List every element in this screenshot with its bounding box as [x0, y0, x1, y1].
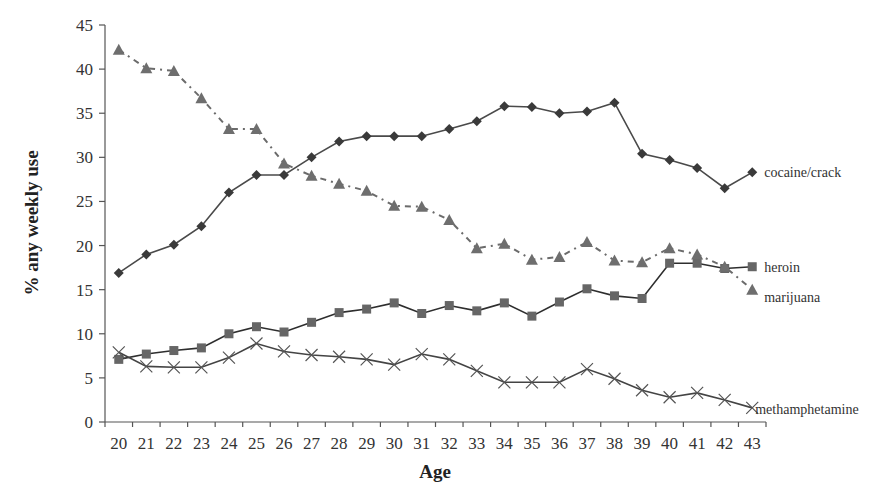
data-point [361, 185, 373, 196]
y-tick-label: 40 [76, 60, 93, 79]
data-point [417, 131, 427, 141]
data-point [307, 152, 317, 162]
data-point [114, 268, 124, 278]
data-point [499, 101, 509, 111]
data-point [526, 254, 538, 265]
y-tick-label: 30 [76, 148, 93, 167]
y-tick-label: 5 [85, 369, 94, 388]
series-label: cocaine/crack [764, 165, 841, 180]
data-point [169, 240, 179, 250]
data-point [610, 291, 619, 300]
data-point [443, 214, 455, 225]
data-point [224, 329, 233, 338]
y-axis-title: % any weekly use [21, 150, 42, 295]
y-tick-label: 15 [76, 281, 93, 300]
data-point [664, 242, 676, 253]
data-point [498, 238, 510, 249]
data-point [693, 259, 702, 268]
data-point [389, 131, 399, 141]
data-point [334, 136, 344, 146]
y-tick-label: 35 [76, 104, 93, 123]
data-point [527, 312, 536, 321]
x-tick-label: 31 [413, 434, 430, 453]
series-layer: cocaine/crackheroinmarijuanamethamphetam… [113, 44, 859, 417]
x-tick-label: 23 [193, 434, 210, 453]
data-point [335, 308, 344, 317]
series-line [119, 343, 752, 407]
data-point [582, 284, 591, 293]
y-tick-label: 20 [76, 237, 93, 256]
data-point [471, 365, 483, 377]
data-point [636, 256, 648, 267]
y-tick-label: 0 [85, 413, 94, 432]
series-line [119, 103, 752, 273]
y-ticks: 051015202530354045 [76, 16, 105, 432]
data-point [169, 346, 178, 355]
x-tick-label: 29 [358, 434, 375, 453]
y-tick-label: 45 [76, 16, 93, 35]
x-tick-label: 40 [661, 434, 678, 453]
y-tick-label: 25 [76, 192, 93, 211]
data-point [472, 116, 482, 126]
data-point [278, 158, 290, 169]
x-tick-label: 24 [220, 434, 238, 453]
x-tick-label: 32 [441, 434, 458, 453]
data-point [141, 249, 151, 259]
series-marijuana: marijuana [113, 44, 821, 305]
data-point [748, 262, 757, 271]
data-point [609, 255, 621, 266]
y-tick-label: 10 [76, 325, 93, 344]
data-point [362, 131, 372, 141]
series-methamphetamine: methamphetamine [113, 337, 859, 416]
line-chart: 051015202530354045 202122232425262728293… [0, 0, 888, 504]
x-tick-label: 42 [716, 434, 733, 453]
data-point [636, 384, 648, 396]
data-point [581, 363, 593, 375]
data-point [280, 328, 289, 337]
x-tick-label: 33 [468, 434, 485, 453]
data-point [307, 318, 316, 327]
data-point [252, 322, 261, 331]
series-label: methamphetamine [755, 402, 858, 417]
x-tick-label: 35 [523, 434, 540, 453]
x-tick-label: 20 [110, 434, 127, 453]
data-point [665, 155, 675, 165]
x-axis-title: Age [419, 461, 451, 482]
x-tick-label: 25 [248, 434, 265, 453]
series-line [119, 50, 752, 290]
data-point [665, 259, 674, 268]
x-tick-label: 41 [689, 434, 706, 453]
data-point [113, 44, 125, 55]
x-tick-label: 36 [551, 434, 568, 453]
x-tick-label: 34 [496, 434, 514, 453]
data-point [362, 305, 371, 314]
x-tick-label: 43 [744, 434, 761, 453]
series-label: heroin [764, 260, 800, 275]
x-tick-label: 26 [276, 434, 293, 453]
data-point [306, 170, 318, 181]
data-point [251, 170, 261, 180]
data-point [417, 309, 426, 318]
data-point [747, 167, 757, 177]
data-point [250, 337, 262, 349]
data-point [582, 106, 592, 116]
x-tick-label: 28 [331, 434, 348, 453]
data-point [197, 343, 206, 352]
x-tick-label: 21 [138, 434, 155, 453]
series-label: marijuana [764, 290, 821, 305]
data-point [610, 98, 620, 108]
x-tick-label: 37 [578, 434, 596, 453]
data-point [444, 124, 454, 134]
data-point [472, 306, 481, 315]
x-tick-label: 22 [165, 434, 182, 453]
series-line [119, 263, 752, 359]
data-point [637, 149, 647, 159]
data-point [746, 284, 758, 295]
data-point [719, 394, 731, 406]
data-point [527, 102, 537, 112]
data-point [581, 236, 593, 247]
data-point [500, 298, 509, 307]
data-point [390, 298, 399, 307]
data-point [142, 350, 151, 359]
x-tick-label: 27 [303, 434, 321, 453]
